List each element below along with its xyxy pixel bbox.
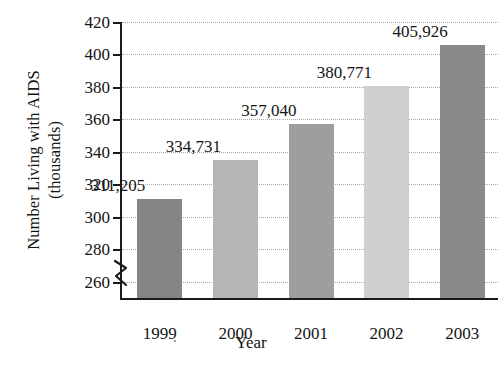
y-axis-tick xyxy=(113,217,122,219)
y-axis-tick-label: 300 xyxy=(64,209,110,226)
y-axis-tick-label: 400 xyxy=(64,46,110,63)
bar-2001 xyxy=(289,124,334,298)
y-axis-tick-label: 360 xyxy=(64,111,110,128)
plot-area: 311,205334,731357,040380,771405,926 1999… xyxy=(120,22,498,300)
y-axis-tick-label: 320 xyxy=(64,176,110,193)
y-axis-tick-label: 260 xyxy=(64,274,110,291)
y-axis-tick xyxy=(113,22,122,24)
y-axis-tick-label: 420 xyxy=(64,14,110,31)
bar-value-label-2000: 334,731 xyxy=(137,138,221,155)
y-axis-title: Number Living with AIDS (thousands) xyxy=(23,20,65,300)
y-axis-tick xyxy=(113,87,122,89)
y-axis-title-line1: Number Living with AIDS xyxy=(24,70,43,250)
axis-break-icon xyxy=(113,259,131,287)
x-axis-title: Year xyxy=(0,333,502,353)
bar-2003 xyxy=(440,45,485,298)
bar-value-label-2002: 380,771 xyxy=(288,64,372,81)
y-axis-tick xyxy=(113,54,122,56)
print-artifact-speck xyxy=(174,340,176,342)
y-axis-tick xyxy=(113,152,122,154)
bar-value-label-2003: 405,926 xyxy=(364,23,448,40)
y-axis-tick-label: 340 xyxy=(64,144,110,161)
bar-1999 xyxy=(137,199,182,298)
y-axis-title-line2: (thousands) xyxy=(44,20,65,300)
y-axis-tick-label: 280 xyxy=(64,241,110,258)
x-axis-line xyxy=(120,298,498,300)
bar-value-label-2001: 357,040 xyxy=(213,102,297,119)
y-axis-tick xyxy=(113,249,122,251)
y-axis-tick xyxy=(113,119,122,121)
bar-2002 xyxy=(364,86,409,298)
y-axis-tick-label: 380 xyxy=(64,79,110,96)
bar-2000 xyxy=(213,160,258,298)
